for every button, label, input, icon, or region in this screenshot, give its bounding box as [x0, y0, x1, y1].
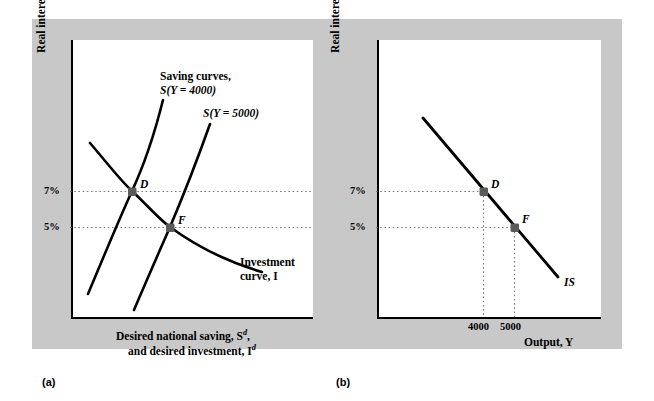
panel-a-caption: (a)	[42, 376, 55, 388]
panel-b-y-axis-title: Real interest rate, r	[329, 0, 342, 53]
panel-a-x-axis-title-line2-text: and desired investment, I	[128, 345, 252, 357]
panel-a-ytick-5: 5%	[44, 221, 60, 233]
panel-a-investment-curve-label-line1: Investment	[240, 256, 295, 269]
panel-a-saving-curve-5000-label: S(Y = 5000)	[203, 107, 259, 120]
panel-a-y-axis	[71, 40, 73, 319]
panel-a-point-f-label: F	[178, 214, 186, 227]
panel-b-xtick-5000: 5000	[500, 321, 521, 333]
panel-b-is-curve-label: IS	[564, 276, 575, 289]
panel-a-x-axis	[71, 317, 313, 319]
panel-a-point-d-label: D	[140, 178, 148, 191]
panel-b-point-d-label: D	[491, 178, 499, 191]
panel-a-saving-curves-label-line1: Saving curves,	[160, 70, 231, 83]
panel-b-point-f-label: F	[522, 213, 530, 226]
panel-a-x-axis-title-line1: Desired national saving, Sd,	[116, 330, 250, 342]
panel-b-xtick-4000: 4000	[468, 321, 489, 333]
panel-b-y-axis	[377, 40, 379, 319]
panel-a-x-axis-title-line1-text: Desired national saving, S	[116, 330, 243, 342]
panel-b-x-axis-title: Output, Y	[524, 336, 573, 349]
panel-b-ytick-5: 5%	[350, 221, 366, 233]
panel-a-saving-curves-label-line2: S(Y = 4000)	[160, 84, 216, 97]
panel-b-ytick-7: 7%	[350, 185, 366, 197]
panel-a-x-axis-title: Desired national saving, Sd, and desired…	[116, 328, 256, 357]
panel-a-x-axis-title-line2-sup: d	[252, 343, 256, 352]
panel-a-x-axis-title-line2: and desired investment, Id	[128, 345, 256, 357]
panel-a-investment-curve-label-line2: curve, I	[240, 270, 278, 283]
panel-b-caption: (b)	[336, 376, 350, 388]
panel-a-x-axis-title-line1-tail: ,	[247, 330, 250, 342]
panel-b-x-axis	[377, 317, 601, 319]
panel-a-ytick-7: 7%	[44, 185, 60, 197]
panel-a-y-axis-title: Real interest rate, r	[35, 0, 48, 53]
figure-root: Real interest rate, r 7% 5% Saving curve…	[0, 0, 654, 401]
